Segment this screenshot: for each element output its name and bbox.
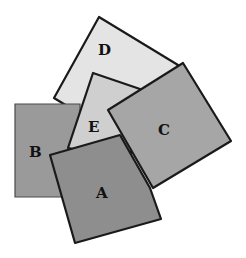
- overlapping-squares-diagram: D B E C A: [0, 0, 246, 258]
- square-b-label: B: [29, 143, 42, 161]
- square-d-label: D: [98, 41, 111, 59]
- square-e-label: E: [88, 118, 99, 136]
- square-c-label: C: [158, 121, 170, 139]
- square-a-label: A: [95, 184, 108, 202]
